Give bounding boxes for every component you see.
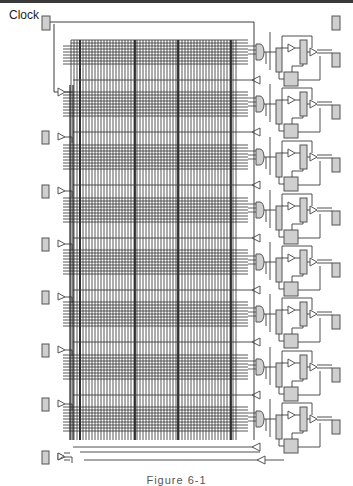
right-io-pad — [332, 105, 340, 119]
input-mux-icon — [256, 202, 264, 218]
left-io-pad — [42, 291, 49, 304]
input-buffer-icon — [58, 400, 65, 407]
output-buffer-icon — [310, 153, 317, 161]
figure-caption: Figure 6-1 — [0, 474, 353, 486]
input-mux-icon — [256, 44, 264, 60]
input-mux-icon — [256, 149, 264, 165]
left-io-pad — [42, 185, 49, 198]
output-buffer-icon — [310, 258, 317, 266]
left-io-pad — [42, 344, 49, 357]
lut-block — [276, 48, 282, 72]
register-block — [300, 407, 307, 431]
lut-block — [276, 258, 282, 282]
output-buffer-icon — [310, 363, 317, 371]
input-buffer-icon — [58, 293, 65, 300]
buffer-right-icon — [288, 306, 295, 314]
control-block — [284, 177, 298, 191]
right-io-pad — [332, 315, 340, 329]
left-io-pad — [42, 131, 49, 144]
register-block — [300, 302, 307, 326]
input-mux-icon — [256, 96, 264, 112]
buffer-left-icon — [252, 338, 260, 346]
output-buffer-icon — [310, 415, 317, 423]
input-buffer-icon — [58, 133, 65, 140]
input-mux-icon — [256, 411, 264, 427]
buffer-right-icon — [288, 254, 295, 262]
register-block — [300, 92, 307, 116]
output-buffer-icon — [310, 100, 317, 108]
right-io-pad — [332, 263, 340, 277]
lut-block — [276, 153, 282, 177]
io-pad — [332, 16, 340, 30]
input-mux-icon — [256, 306, 264, 322]
lut-block — [276, 415, 282, 439]
control-block — [284, 387, 298, 401]
control-block — [284, 334, 298, 348]
control-block — [284, 439, 298, 453]
control-block — [284, 230, 298, 244]
input-buffer-icon — [58, 240, 65, 247]
lut-block — [276, 310, 282, 334]
register-block — [300, 198, 307, 222]
clock-label: Clock — [9, 8, 39, 22]
buffer-right-icon — [288, 202, 295, 210]
output-buffer-icon — [310, 206, 317, 214]
lut-block — [276, 100, 282, 124]
buffer-left-icon — [252, 181, 260, 189]
buffer-right-icon — [288, 44, 295, 52]
buffer-right-icon — [288, 96, 295, 104]
buffer-left-icon — [252, 234, 260, 242]
right-io-pad — [332, 420, 340, 434]
lut-block — [276, 206, 282, 230]
right-io-pad — [332, 368, 340, 382]
buffer-right-icon — [288, 411, 295, 419]
buffer-left-icon — [252, 76, 260, 84]
right-io-pad — [332, 211, 340, 225]
buffer-right-icon — [288, 149, 295, 157]
buffer-left-icon — [252, 286, 260, 294]
left-io-pad — [42, 451, 49, 464]
input-buffer-icon — [58, 346, 65, 353]
right-io-pad — [332, 158, 340, 172]
clock-pad — [42, 16, 50, 30]
buffer-left-icon — [252, 128, 260, 136]
bottom-buffer-left-icon — [257, 456, 265, 464]
right-io-pad — [332, 53, 340, 67]
buffer-left-icon — [252, 391, 260, 399]
output-buffer-icon — [310, 48, 317, 56]
input-buffer-icon — [58, 187, 65, 194]
left-io-pad — [42, 398, 49, 411]
buffer-left-icon — [252, 443, 260, 451]
register-block — [300, 250, 307, 274]
input-mux-icon — [256, 254, 264, 270]
register-block — [300, 40, 307, 64]
control-block — [284, 282, 298, 296]
input-mux-icon — [256, 359, 264, 375]
register-block — [300, 145, 307, 169]
control-block — [284, 124, 298, 138]
lut-block — [276, 363, 282, 387]
control-block — [284, 72, 298, 86]
register-block — [300, 355, 307, 379]
output-buffer-icon — [310, 310, 317, 318]
left-io-pad — [42, 238, 49, 251]
buffer-right-icon — [288, 359, 295, 367]
